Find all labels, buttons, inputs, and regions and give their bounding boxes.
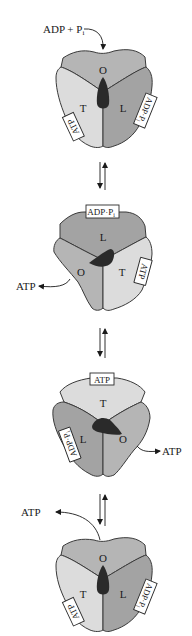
bound-adp-pi-tag: ADP·Pi bbox=[86, 205, 119, 218]
svg-text:ADP·Pi: ADP·Pi bbox=[87, 207, 115, 218]
released-atp-label: ATP bbox=[21, 506, 41, 518]
label-T: T bbox=[119, 266, 126, 278]
input-label: ADP + Pi bbox=[43, 23, 84, 37]
equilibrium-arrows-3 bbox=[100, 494, 105, 526]
label-T: T bbox=[80, 588, 87, 600]
label-O: O bbox=[99, 552, 107, 564]
label-T: T bbox=[100, 397, 107, 409]
input-arrow bbox=[84, 29, 103, 49]
release-arrow bbox=[56, 512, 100, 540]
state-1: ADP + Pi O T L ATP ADP·Pi bbox=[43, 23, 157, 148]
svg-text:ATP: ATP bbox=[94, 375, 110, 385]
label-L: L bbox=[100, 231, 107, 243]
released-atp-label: ATP bbox=[16, 280, 36, 292]
release-arrow bbox=[39, 279, 70, 287]
label-L: L bbox=[120, 102, 127, 114]
binding-change-diagram: ADP + Pi O T L ATP ADP·Pi bbox=[0, 0, 192, 636]
label-T: T bbox=[80, 102, 87, 114]
label-O: O bbox=[99, 64, 107, 76]
bound-atp-tag: ATP bbox=[90, 373, 114, 385]
equilibrium-arrows-1 bbox=[100, 162, 105, 190]
equilibrium-arrows-2 bbox=[100, 328, 105, 358]
label-O: O bbox=[77, 266, 85, 278]
released-atp-label: ATP bbox=[162, 445, 182, 457]
release-arrow bbox=[137, 446, 160, 451]
label-L: L bbox=[120, 588, 127, 600]
label-L: L bbox=[80, 433, 87, 445]
state-2: ADP·Pi L O T ATP ATP bbox=[16, 205, 152, 310]
state-3: ATP T L O ADP·Pi ATP bbox=[53, 373, 182, 476]
label-O: O bbox=[119, 433, 127, 445]
state-4: O T L ATP ADP·Pi ATP bbox=[21, 506, 157, 632]
